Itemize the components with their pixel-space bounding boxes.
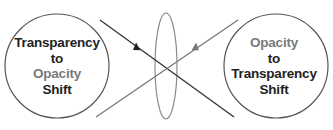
connector-line-gray: [96, 20, 238, 117]
left-line-2: to: [5, 51, 109, 67]
left-line-4: Shift: [5, 82, 109, 98]
left-line-1: Transparency: [5, 35, 109, 51]
center-ellipse: [155, 13, 177, 119]
right-line-3: Transparency: [222, 66, 326, 82]
right-line-1: Opacity: [222, 35, 326, 51]
right-line-4: Shift: [222, 82, 326, 98]
right-circle-label: Opacity to Transparency Shift: [222, 35, 326, 97]
left-circle-label: Transparency to Opacity Shift: [5, 35, 109, 97]
right-line-2: to: [222, 51, 326, 67]
left-line-3: Opacity: [5, 66, 109, 82]
